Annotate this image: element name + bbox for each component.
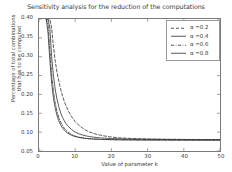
legend-line-swatch xyxy=(170,49,187,58)
legend-item-label: α =0.2 xyxy=(187,25,208,30)
y-axis-tick-label: 0.05 xyxy=(21,149,33,154)
legend-line-swatch xyxy=(170,24,187,33)
legend-item-label: α =0.8 xyxy=(187,51,208,56)
x-axis-tick-label: 50 xyxy=(218,153,225,159)
y-axis-tick-label: 0.40 xyxy=(21,15,33,20)
x-axis-tick-label: 0 xyxy=(36,153,39,159)
y-axis-tick-label: 0.10 xyxy=(21,130,33,135)
x-axis-tick-label: 20 xyxy=(108,153,115,159)
y-axis-tick-label: 0.15 xyxy=(21,111,33,116)
figure: Sensitivity analysis for the reduction o… xyxy=(0,0,232,172)
x-axis-tick-label: 30 xyxy=(144,153,151,159)
x-axis-tick-label: 10 xyxy=(71,153,78,159)
y-axis-tick-labels: 0.050.100.150.200.250.300.350.40 xyxy=(0,18,36,152)
legend-item[interactable]: α =0.2 xyxy=(170,24,216,33)
chart-title: Sensitivity analysis for the reduction o… xyxy=(0,3,232,11)
legend-line-swatch xyxy=(170,32,187,41)
x-axis-title: Value of parameter k xyxy=(38,161,221,168)
y-axis-tick-label: 0.30 xyxy=(21,54,33,59)
legend-item-label: α =0.6 xyxy=(187,42,208,47)
x-axis-tick-label: 40 xyxy=(181,153,188,159)
legend-item[interactable]: α =0.8 xyxy=(170,49,216,58)
legend-item[interactable]: α =0.6 xyxy=(170,41,216,50)
legend-item[interactable]: α =0.4 xyxy=(170,32,216,41)
y-axis-tick-label: 0.20 xyxy=(21,92,33,97)
y-axis-tick-label: 0.25 xyxy=(21,73,33,78)
legend: α =0.2α =0.4α =0.6α =0.8 xyxy=(166,20,220,61)
y-axis-tick-label: 0.35 xyxy=(21,34,33,39)
legend-item-label: α =0.4 xyxy=(187,34,208,39)
legend-line-swatch xyxy=(170,41,187,50)
